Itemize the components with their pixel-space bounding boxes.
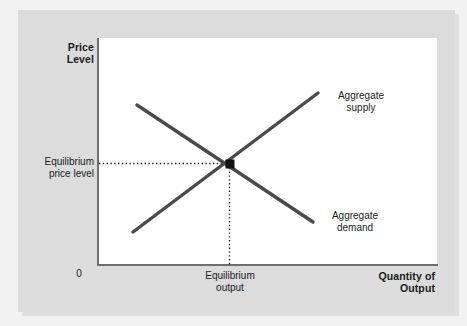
y-axis-line bbox=[97, 38, 99, 266]
aggregate-demand-label: Aggregate demand bbox=[318, 210, 392, 234]
aggregate-supply-label: Aggregate supply bbox=[325, 90, 397, 114]
x-axis-title: Quantity of Output bbox=[340, 270, 435, 295]
equilibrium-output-label: Equilibrium output bbox=[176, 270, 284, 294]
equilibrium-price-level-label: Equilibrium price level bbox=[12, 156, 94, 180]
x-axis-line bbox=[97, 264, 438, 266]
figure-root: Price Level Quantity of Output 0 Equilib… bbox=[0, 0, 467, 326]
origin-label: 0 bbox=[72, 268, 86, 280]
y-axis-title: Price Level bbox=[52, 41, 94, 66]
